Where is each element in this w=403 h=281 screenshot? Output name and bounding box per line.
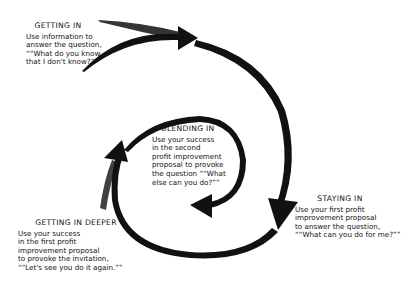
stage-getting-in: GETTING IN Use information to answer the…: [26, 22, 102, 67]
stage-title: GETTING IN DEEPER: [26, 219, 126, 228]
stage-text-line: ““Let's see you do it again.””: [18, 264, 126, 273]
stage-getting-in-deeper: GETTING IN DEEPER Use your success in th…: [18, 219, 126, 273]
stage-title: GETTING IN: [26, 22, 90, 31]
stage-staying-in: STAYING IN Use your first profit improve…: [295, 195, 400, 240]
stage-title: STAYING IN: [295, 195, 385, 204]
spiral-process-diagram: GETTING IN Use information to answer the…: [0, 0, 403, 281]
stage-text-line: else can you do?””: [152, 179, 226, 188]
stage-blending-in: BLENDING IN Use your success in the seco…: [152, 125, 226, 187]
stage-text-line: ““What can you do for me?””: [295, 231, 400, 240]
stage-text-line: that I don't know?””: [26, 58, 102, 67]
stage-title: BLENDING IN: [152, 125, 224, 134]
